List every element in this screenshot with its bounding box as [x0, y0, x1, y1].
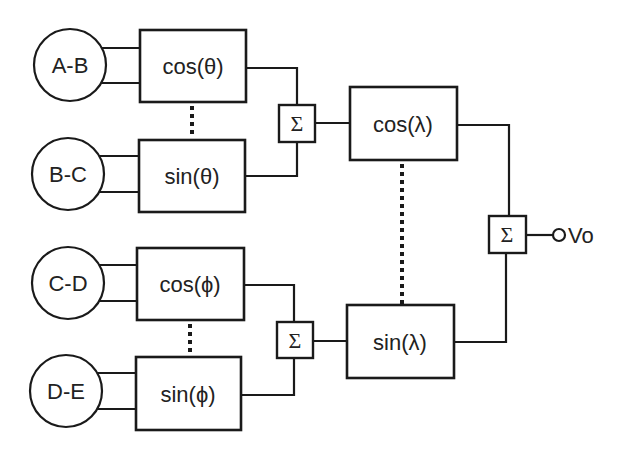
wire-sin-theta-to-sum	[245, 141, 297, 176]
block-cos-phi-label: cos(ϕ)	[159, 272, 220, 297]
summer-output: Σ	[489, 216, 526, 253]
block-cos-phi: cos(ϕ)	[137, 248, 244, 320]
node-bc: B-C	[32, 138, 104, 210]
block-cos-theta-label: cos(θ)	[162, 54, 223, 79]
sigma-icon: Σ	[291, 111, 304, 136]
summer-phi: Σ	[277, 322, 313, 358]
node-ab-label: A-B	[52, 53, 89, 78]
block-sin-phi-label: sin(ϕ)	[160, 382, 215, 407]
node-bc-label: B-C	[49, 162, 87, 187]
wire-cos-lambda-to-sum	[457, 125, 509, 216]
node-cd-label: C-D	[48, 271, 87, 296]
block-cos-theta: cos(θ)	[140, 30, 246, 102]
node-cd: C-D	[32, 247, 104, 319]
node-de-label: D-E	[47, 379, 85, 404]
block-sin-theta-label: sin(θ)	[164, 164, 219, 189]
block-cos-lambda: cos(λ)	[350, 87, 457, 160]
sigma-icon: Σ	[501, 222, 514, 247]
node-de: D-E	[30, 355, 102, 427]
block-cos-lambda-label: cos(λ)	[373, 112, 433, 137]
block-sin-lambda-label: sin(λ)	[373, 330, 427, 355]
terminal-icon	[553, 229, 565, 241]
sigma-icon: Σ	[289, 328, 302, 353]
wire-sin-phi-to-sum	[241, 358, 294, 395]
block-sin-theta: sin(θ)	[139, 140, 245, 212]
signal-flow-diagram: A-B B-C C-D D-E cos(θ) sin(θ) cos(ϕ) sin…	[0, 0, 630, 451]
output-terminal: Vo	[553, 223, 594, 248]
summer-theta: Σ	[279, 105, 315, 142]
wire-cos-theta-to-sum	[246, 68, 297, 105]
block-sin-lambda: sin(λ)	[347, 305, 454, 378]
wire-sin-lambda-to-sum	[454, 253, 506, 342]
block-sin-phi: sin(ϕ)	[136, 357, 241, 430]
wire-cos-phi-to-sum	[244, 285, 294, 322]
output-label: Vo	[568, 223, 594, 248]
node-ab: A-B	[34, 29, 106, 101]
node-wires	[95, 48, 140, 409]
